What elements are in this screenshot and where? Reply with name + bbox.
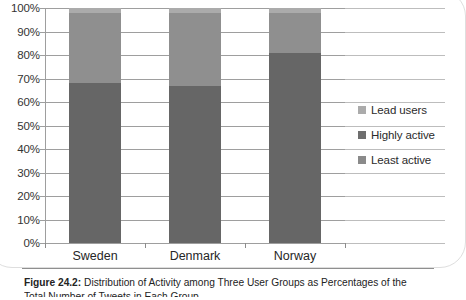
y-axis-tick-label: 50% [17, 120, 40, 132]
caption-line-2: Total Number of Tweets in Each Group [24, 290, 439, 297]
y-axis-tick [40, 196, 45, 197]
legend-swatch-icon [358, 131, 366, 139]
x-axis-tick [245, 243, 246, 248]
y-axis-tick [40, 102, 45, 103]
chart-legend: Lead usersHighly activeLeast active [358, 103, 453, 178]
bar-segment-lead-users [169, 8, 221, 13]
y-axis-tick [40, 173, 45, 174]
y-axis-tick [40, 79, 45, 80]
gridline-extension [345, 79, 445, 80]
bar-segment-highly-active [69, 13, 121, 84]
x-axis-category-label: Norway [274, 249, 316, 263]
bar-norway [269, 8, 321, 243]
y-axis-tick [40, 149, 45, 150]
legend-label: Lead users [371, 104, 427, 116]
gridline-extension [345, 8, 445, 9]
gridline-extension [345, 196, 445, 197]
bar-segment-lead-users [269, 8, 321, 13]
caption-line-1: Distribution of Activity among Three Use… [81, 277, 406, 288]
legend-item: Least active [358, 153, 453, 166]
y-axis-tick-label: 90% [17, 26, 40, 38]
bar-segment-least-active [69, 83, 121, 243]
figure-caption: Figure 24.2: Distribution of Activity am… [24, 276, 439, 297]
x-axis-tick [145, 243, 146, 248]
legend-label: Highly active [371, 129, 435, 141]
bar-segment-lead-users [69, 8, 121, 13]
y-axis-tick [40, 32, 45, 33]
bar-segment-least-active [169, 86, 221, 243]
x-axis-category-label: Sweden [72, 249, 117, 263]
y-axis-tick-label: 40% [17, 143, 40, 155]
y-axis-tick [40, 55, 45, 56]
gridline-extension [345, 149, 445, 150]
y-axis-tick [40, 8, 45, 9]
y-axis-tick-label: 60% [17, 96, 40, 108]
gridline-extension [345, 220, 445, 221]
caption-divider [22, 268, 434, 269]
legend-label: Least active [371, 154, 431, 166]
bar-segment-highly-active [269, 13, 321, 53]
legend-item: Highly active [358, 128, 453, 141]
x-axis-category-label: Denmark [170, 249, 221, 263]
x-axis-tick [345, 243, 346, 248]
y-axis-tick-label: 30% [17, 167, 40, 179]
y-axis-tick-label: 10% [17, 214, 40, 226]
gridline-extension [345, 173, 445, 174]
gridline-extension [345, 243, 445, 244]
y-axis-labels: 0%10%20%30%40%50%60%70%80%90%100% [0, 8, 40, 243]
bar-segment-least-active [269, 53, 321, 243]
legend-swatch-icon [358, 106, 366, 114]
caption-label: Figure 24.2: [24, 277, 81, 288]
y-axis-tick-label: 80% [17, 49, 40, 61]
y-axis-tick-label: 100% [11, 2, 40, 14]
plot-area [45, 8, 345, 243]
y-axis-tick [40, 126, 45, 127]
gridline-extension [345, 126, 445, 127]
gridline [45, 243, 345, 244]
legend-item: Lead users [358, 103, 453, 116]
gridline-extension [345, 55, 445, 56]
bar-segment-highly-active [169, 13, 221, 86]
bar-sweden [69, 8, 121, 243]
x-axis-tick [45, 243, 46, 248]
y-axis-tick-label: 70% [17, 73, 40, 85]
figure-container: 0%10%20%30%40%50%60%70%80%90%100% Lead u… [0, 0, 453, 268]
gridline-extension [345, 102, 445, 103]
bar-denmark [169, 8, 221, 243]
y-axis-tick [40, 220, 45, 221]
y-axis-tick-label: 20% [17, 190, 40, 202]
legend-swatch-icon [358, 156, 366, 164]
y-axis-tick-label: 0% [24, 237, 40, 249]
gridline-extension [345, 32, 445, 33]
